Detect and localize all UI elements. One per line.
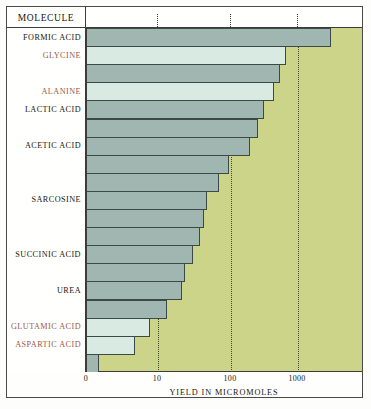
gridline: [298, 28, 299, 372]
bar: [86, 300, 167, 319]
molecule-label: ACETIC ACID: [25, 142, 81, 150]
chart-page: MOLECULE FORMIC ACIDGLYCINEALANINELACTIC…: [0, 0, 371, 409]
bar: [86, 173, 219, 192]
bar: [86, 191, 207, 210]
x-tick-label: 1000: [288, 374, 305, 383]
bar: [86, 209, 204, 228]
plot-area: [86, 28, 362, 372]
bar: [86, 155, 229, 174]
molecule-label: FORMIC ACID: [23, 34, 81, 42]
bar: [86, 100, 264, 119]
bar: [86, 336, 135, 355]
bar: [86, 119, 258, 138]
bar: [86, 281, 182, 300]
x-tick-label: 100: [224, 374, 237, 383]
molecule-label: ASPARTIC ACID: [15, 341, 81, 349]
molecule-label: ALANINE: [41, 88, 81, 96]
molecule-label: GLYCINE: [43, 52, 81, 60]
bar: [86, 46, 286, 65]
bar: [86, 82, 274, 101]
bar: [86, 245, 193, 264]
x-tick-label: 10: [153, 374, 162, 383]
bar: [86, 137, 250, 156]
x-tick-label: 0: [84, 374, 88, 383]
bar: [86, 227, 200, 246]
bar: [86, 28, 331, 47]
molecule-label-column: FORMIC ACIDGLYCINEALANINELACTIC ACIDACET…: [7, 28, 86, 372]
column-header-molecule: MOLECULE: [7, 7, 86, 28]
bar: [86, 354, 99, 372]
x-axis-line: [86, 371, 362, 372]
molecule-label: SARCOSINE: [31, 196, 81, 204]
bar: [86, 263, 185, 282]
molecule-label: LACTIC ACID: [25, 106, 81, 114]
molecule-label: UREA: [57, 287, 81, 295]
x-axis-title: YIELD IN MICROMOLES: [86, 388, 362, 397]
molecule-label: GLUTAMIC ACID: [11, 323, 81, 331]
molecule-label: SUCCINIC ACID: [15, 251, 81, 259]
bar: [86, 318, 150, 337]
bar: [86, 64, 280, 83]
